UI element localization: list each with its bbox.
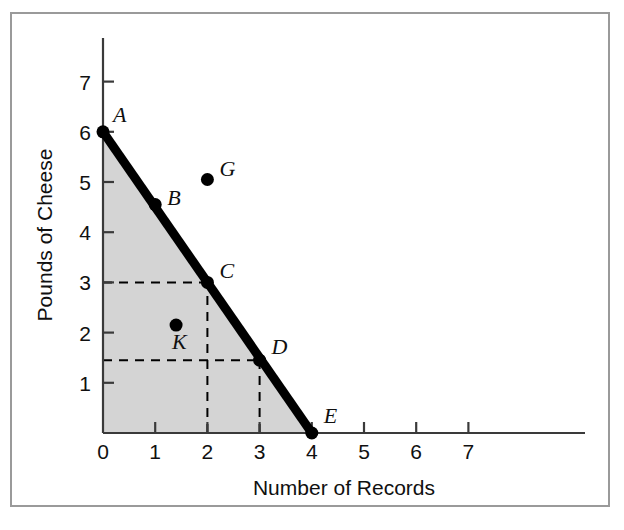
y-axis-tick-labels: 1234567 (79, 71, 91, 395)
x-tick-label-2: 2 (202, 440, 214, 463)
y-tick-label-4: 4 (79, 221, 91, 244)
figure-root: 01234567 1234567 ABCDEGK Number of Recor… (0, 0, 624, 530)
data-point-B[interactable] (149, 198, 162, 211)
data-point-label-C: C (219, 258, 234, 283)
y-tick-label-3: 3 (79, 271, 91, 294)
y-axis-title: Pounds of Cheese (33, 149, 56, 322)
x-axis-title: Number of Records (253, 476, 435, 499)
data-point-label-G: G (219, 156, 235, 181)
x-tick-label-5: 5 (358, 440, 370, 463)
data-point-label-B: B (167, 185, 180, 210)
data-point-label-D: D (271, 334, 288, 359)
data-point-A[interactable] (97, 125, 110, 138)
x-axis-tick-labels: 01234567 (97, 440, 474, 463)
x-tick-label-1: 1 (149, 440, 161, 463)
y-tick-label-2: 2 (79, 322, 91, 345)
data-point-label-E: E (323, 403, 338, 428)
production-possibilities-chart: 01234567 1234567 ABCDEGK Number of Recor… (0, 0, 624, 530)
y-tick-label-1: 1 (79, 372, 91, 395)
y-tick-label-5: 5 (79, 171, 91, 194)
data-point-label-K: K (171, 329, 188, 354)
data-point-E[interactable] (305, 427, 318, 440)
y-tick-label-6: 6 (79, 121, 91, 144)
x-tick-label-0: 0 (97, 440, 109, 463)
x-tick-label-7: 7 (463, 440, 475, 463)
y-tick-label-7: 7 (79, 71, 91, 94)
x-tick-label-3: 3 (254, 440, 266, 463)
x-tick-label-4: 4 (306, 440, 318, 463)
data-point-label-A: A (111, 102, 127, 127)
data-point-D[interactable] (253, 354, 266, 367)
data-point-G[interactable] (201, 173, 214, 186)
data-point-C[interactable] (201, 276, 214, 289)
x-tick-label-6: 6 (410, 440, 422, 463)
